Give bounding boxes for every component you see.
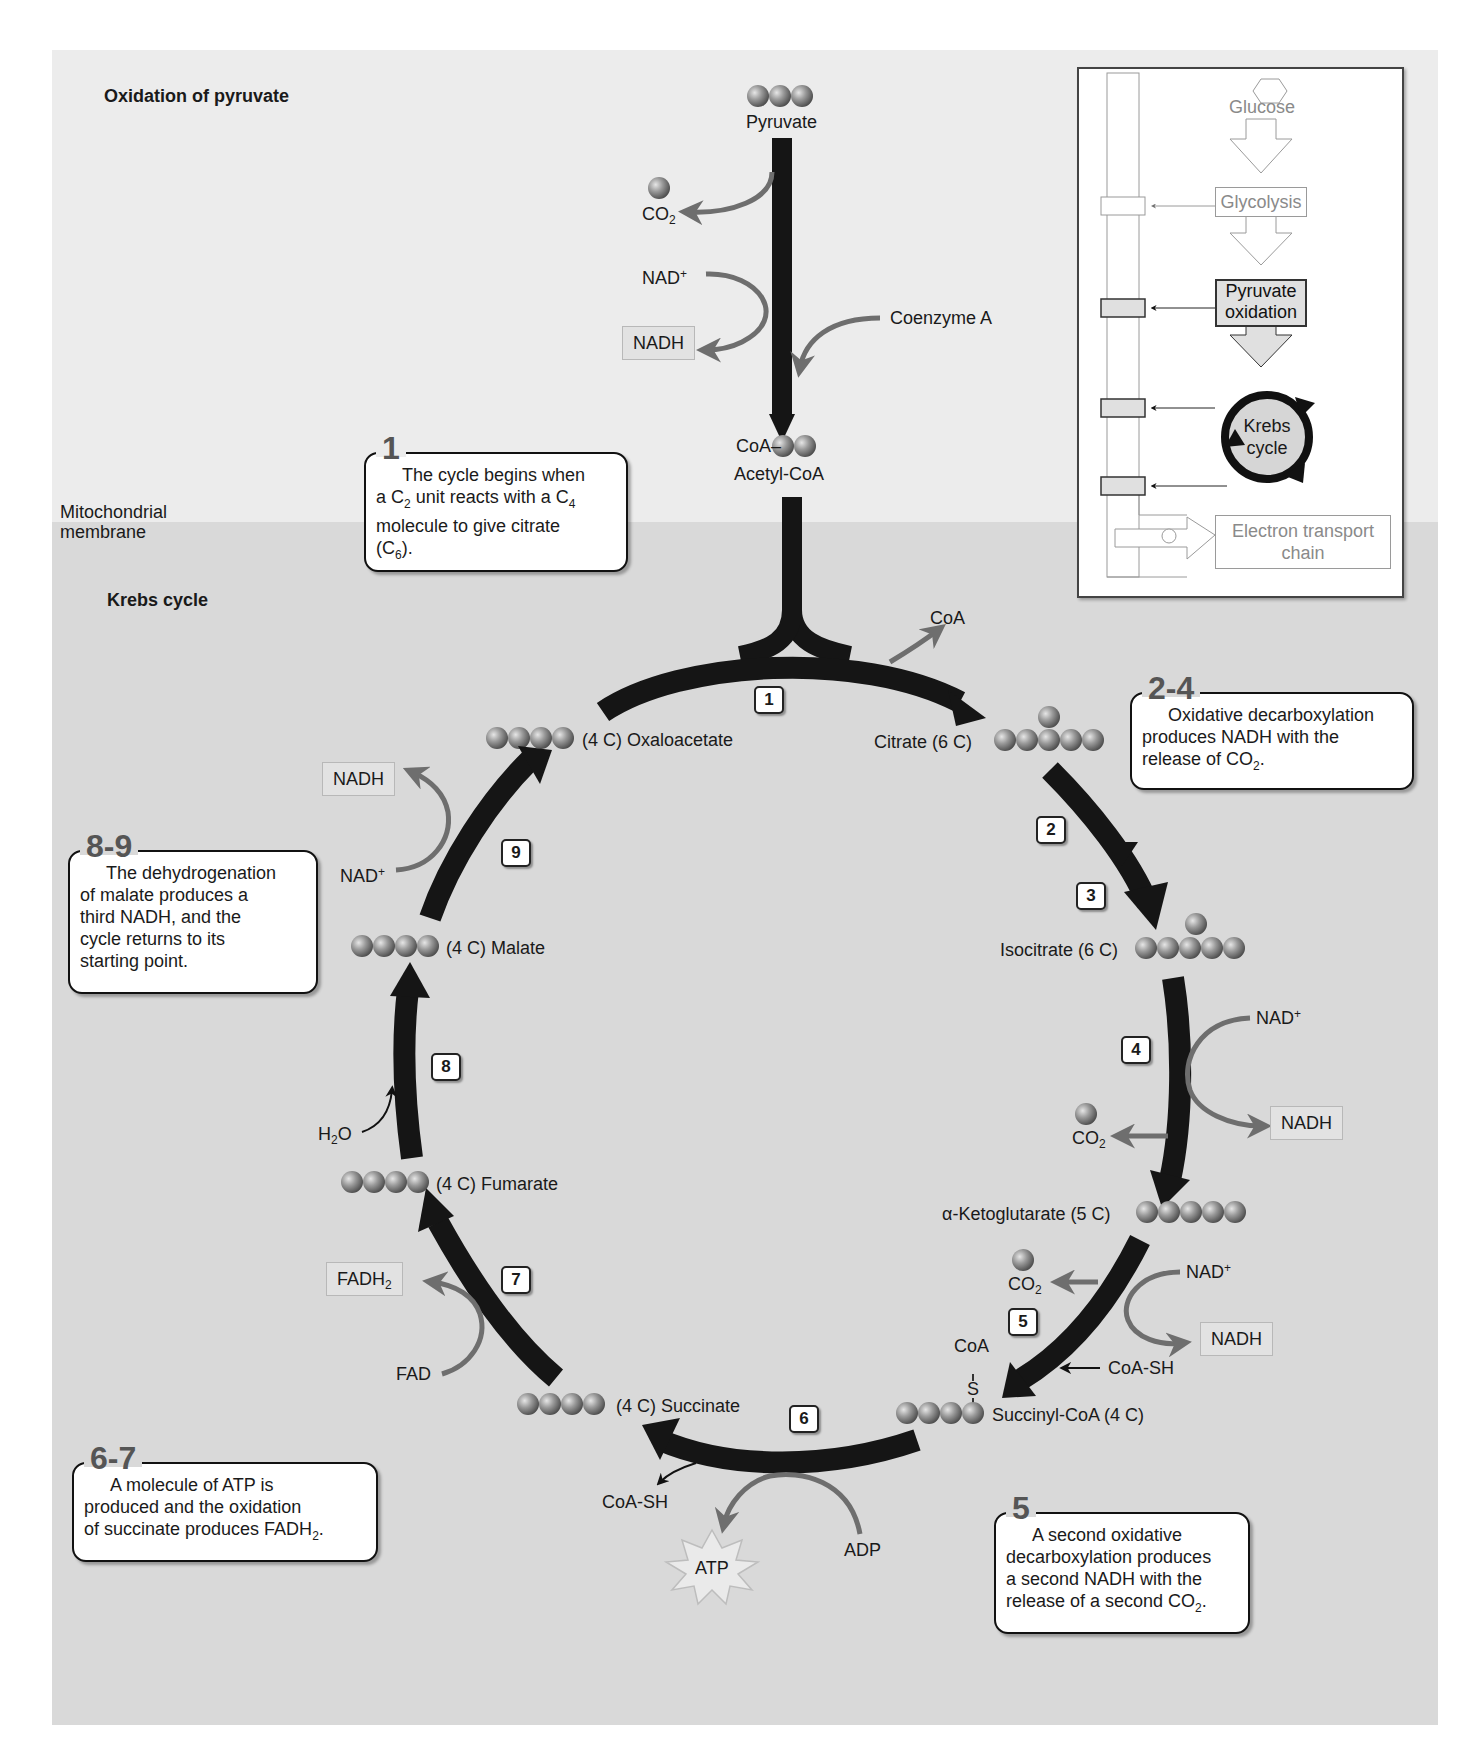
malate-molecule-icon: [351, 935, 439, 957]
inset-etc-line1: Electron transport: [1216, 520, 1390, 542]
membrane-label-line2: membrane: [60, 522, 167, 542]
fumarate-label: (4 C) Fumarate: [436, 1174, 558, 1194]
acetyl-coa-label: Acetyl-CoA: [734, 464, 824, 484]
oxaloacetate-label: (4 C) Oxaloacetate: [582, 730, 733, 750]
acetyl-coa-prefix-label: CoA–: [736, 436, 781, 456]
callout-steps-6-7: 6-7 A molecule of ATP is produced and th…: [72, 1462, 378, 1562]
inset-krebs-line1: Krebs: [1229, 415, 1305, 437]
inset-pyruvate-oxidation-box: Pyruvate oxidation: [1215, 279, 1307, 327]
callout-steps-8-9: 8-9 The dehydrogenation of malate produc…: [68, 850, 318, 994]
step-badge-5: 5: [1008, 1308, 1038, 1336]
succinyl-coa-label: Succinyl-CoA (4 C): [992, 1405, 1144, 1425]
step6-adp-label: ADP: [844, 1540, 881, 1560]
step-badge-7: 7: [501, 1266, 531, 1294]
step7-fad-label: FAD: [396, 1364, 431, 1384]
co2-molecule-icon: [1012, 1249, 1034, 1271]
oxaloacetate-molecule-icon: [486, 727, 574, 749]
inset-glycolysis-box: Glycolysis: [1215, 187, 1307, 217]
step5-co2-label: CO2: [1008, 1274, 1042, 1294]
step4-nad-plus-label: NAD+: [1256, 1008, 1301, 1028]
inset-pyruvate-oxidation-line2: oxidation: [1217, 302, 1305, 323]
inset-glucose-label: Glucose: [1217, 97, 1307, 118]
callout-number: 6-7: [86, 1442, 140, 1474]
citrate-label: Citrate (6 C): [874, 732, 972, 752]
malate-label: (4 C) Malate: [446, 938, 545, 958]
step9-nad-plus-label: NAD+: [340, 866, 385, 886]
step-badge-3: 3: [1076, 882, 1106, 910]
pyruvate-label: Pyruvate: [746, 112, 817, 132]
inset-krebs-line2: cycle: [1229, 437, 1305, 459]
succinyl-coa-group-label: CoA: [954, 1336, 989, 1356]
callout-steps-2-4: 2-4 Oxidative decarboxylation produces N…: [1130, 692, 1414, 790]
step-badge-8: 8: [431, 1053, 461, 1081]
step-badge-1: 1: [754, 686, 784, 714]
step9-nadh-box: NADH: [322, 762, 395, 796]
co2-molecule-icon: [1075, 1103, 1097, 1125]
isocitrate-label: Isocitrate (6 C): [1000, 940, 1118, 960]
section-title-krebs-cycle: Krebs cycle: [107, 590, 208, 610]
step6-coash-label: CoA-SH: [602, 1492, 668, 1512]
step-badge-6: 6: [789, 1405, 819, 1433]
step4-nadh-box: NADH: [1270, 1106, 1343, 1140]
co2-label: CO2: [642, 204, 676, 224]
step7-fadh2-box: FADH2: [326, 1262, 403, 1296]
pyruvate-molecule-icon: [747, 85, 813, 107]
fumarate-molecule-icon: [341, 1171, 429, 1193]
callout-number: 2-4: [1144, 672, 1198, 704]
inset-etc-line2: chain: [1216, 542, 1390, 564]
callout-step-5: 5 A second oxidative decarboxylation pro…: [994, 1512, 1250, 1634]
step8-h2o-label: H2O: [318, 1124, 352, 1144]
callout-number: 5: [1008, 1492, 1034, 1524]
callout-step-1: 1 The cycle begins when a C2 unit reacts…: [364, 452, 628, 572]
membrane-label-line1: Mitochondrial: [60, 502, 167, 522]
succinyl-coa-molecule-icon: [896, 1402, 984, 1424]
callout-number: 1: [378, 432, 404, 464]
step5-coash-label: CoA-SH: [1108, 1358, 1174, 1378]
succinyl-sulfur-label: S: [967, 1379, 979, 1399]
inset-electron-transport-chain-box: Electron transport chain: [1215, 515, 1391, 569]
callout-number: 8-9: [82, 830, 136, 862]
step-badge-2: 2: [1036, 816, 1066, 844]
step-badge-4: 4: [1121, 1036, 1151, 1064]
section-title-oxidation-of-pyruvate: Oxidation of pyruvate: [104, 86, 289, 106]
step6-atp-label: ATP: [695, 1558, 729, 1578]
krebs-cycle-figure: Oxidation of pyruvate Krebs cycle Mitoch…: [0, 0, 1477, 1760]
membrane-label: Mitochondrial membrane: [60, 502, 167, 542]
alpha-ketoglutarate-label: α-Ketoglutarate (5 C): [942, 1204, 1110, 1224]
nadh-product-box: NADH: [622, 326, 695, 360]
alpha-ketoglutarate-molecule-icon: [1136, 1201, 1246, 1223]
nad-plus-label: NAD+: [642, 268, 687, 288]
inset-pyruvate-oxidation-line1: Pyruvate: [1217, 281, 1305, 302]
pyruvate-oxidation-arrow: [772, 138, 792, 418]
co2-molecule-icon: [648, 177, 670, 199]
coa-release-label: CoA: [930, 608, 965, 628]
succinate-label: (4 C) Succinate: [616, 1396, 740, 1416]
citrate-molecule-icon: [994, 706, 1104, 751]
inset-krebs-cycle-label: Krebs cycle: [1229, 415, 1305, 459]
coenzyme-a-label: Coenzyme A: [890, 308, 992, 328]
respiration-overview-inset: Glucose Glycolysis Pyruvate oxidation Kr…: [1077, 67, 1404, 598]
step5-nadh-box: NADH: [1200, 1322, 1273, 1356]
step5-nad-plus-label: NAD+: [1186, 1262, 1231, 1282]
step4-co2-label: CO2: [1072, 1128, 1106, 1148]
step-badge-9: 9: [501, 839, 531, 867]
succinate-molecule-icon: [517, 1393, 605, 1415]
